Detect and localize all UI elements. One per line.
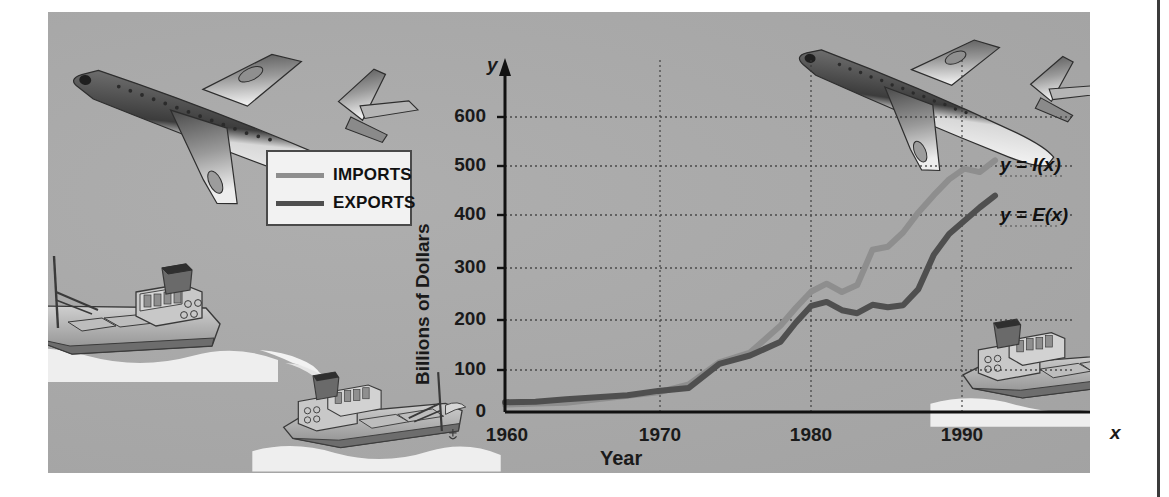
ytick-label-100: 100 bbox=[426, 358, 486, 380]
legend-label-exports: EXPORTS bbox=[333, 193, 416, 213]
imports-curve-label: y = I(x) bbox=[1000, 154, 1061, 176]
y-axis-variable-label: y bbox=[487, 54, 498, 76]
cargo-ship-left bbox=[0, 256, 278, 382]
ytick-label-300: 300 bbox=[426, 256, 486, 278]
y-axis-title: Billions of Dollars bbox=[412, 223, 434, 385]
ytick-label-400: 400 bbox=[426, 203, 486, 225]
chart-area bbox=[0, 0, 1169, 497]
legend-label-imports: IMPORTS bbox=[333, 165, 412, 185]
x-axis-title: Year bbox=[600, 447, 642, 470]
xtick-label-1970: 1970 bbox=[620, 424, 700, 446]
series-exports bbox=[505, 196, 995, 403]
legend-swatch-exports bbox=[276, 201, 324, 206]
legend-item-imports: IMPORTS bbox=[276, 161, 402, 189]
exports-curve-label: y = E(x) bbox=[1000, 204, 1068, 226]
xtick-label-1980: 1980 bbox=[771, 424, 851, 446]
xtick-label-1960: 1960 bbox=[467, 424, 547, 446]
page-background: 600 500 400 300 200 100 0 1960 1970 1980… bbox=[0, 0, 1169, 497]
ytick-label-500: 500 bbox=[426, 154, 486, 176]
ytick-label-600: 600 bbox=[426, 105, 486, 127]
legend-swatch-imports bbox=[276, 173, 324, 178]
ytick-label-0: 0 bbox=[426, 400, 486, 422]
xtick-label-1990: 1990 bbox=[922, 424, 1002, 446]
ytick-label-200: 200 bbox=[426, 308, 486, 330]
legend-item-exports: EXPORTS bbox=[276, 189, 402, 217]
x-axis-variable-label: x bbox=[1110, 422, 1121, 444]
chart-legend: IMPORTS EXPORTS bbox=[266, 150, 412, 226]
